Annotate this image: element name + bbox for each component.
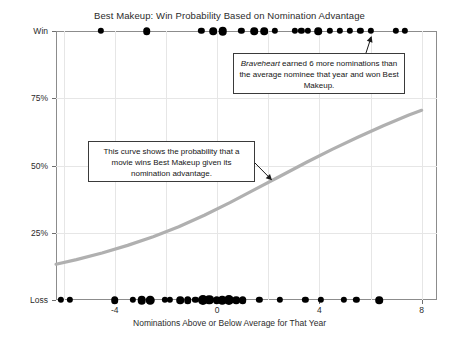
y-tick-mark [52, 233, 56, 234]
x-tick-label: 4 [304, 305, 334, 315]
data-point [256, 297, 262, 303]
data-point [376, 296, 384, 304]
x-tick-label: 0 [202, 305, 232, 315]
x-tick-label: 8 [407, 305, 437, 315]
braveheart-emphasis: Braveheart [241, 59, 280, 68]
data-point [111, 296, 119, 304]
y-tick-label: Loss [2, 295, 48, 305]
chart-title: Best Makeup: Win Probability Based on No… [0, 10, 459, 21]
data-point [209, 27, 217, 35]
data-point [167, 297, 173, 303]
y-tick-label: Win [2, 26, 48, 36]
y-tick-label: 75% [2, 93, 48, 103]
data-point [130, 297, 136, 303]
data-point [314, 27, 322, 35]
data-point [302, 297, 308, 303]
data-point [67, 297, 73, 303]
x-axis-label: Nominations Above or Below Average for T… [0, 318, 459, 328]
gridline-horizontal [56, 98, 437, 99]
data-point [137, 296, 146, 305]
x-tick-label: -4 [100, 305, 130, 315]
data-point [261, 27, 269, 35]
data-point [143, 27, 151, 35]
y-tick-label: 50% [2, 161, 48, 171]
data-point [176, 296, 184, 304]
annotation-braveheart: Braveheart earned 6 more nominations tha… [233, 53, 405, 94]
annotation-curve: This curve shows the probability that a … [88, 141, 255, 182]
chart-container: Best Makeup: Win Probability Based on No… [0, 0, 459, 346]
data-point [341, 297, 347, 303]
gridline-horizontal [56, 233, 437, 234]
y-tick-label: 25% [2, 228, 48, 238]
data-point [146, 296, 155, 305]
data-point [239, 296, 247, 304]
curve-note-text: This curve shows the probability that a … [103, 147, 239, 178]
data-point [353, 297, 359, 303]
data-point [277, 297, 283, 303]
data-point [58, 297, 64, 303]
data-point [218, 27, 227, 36]
data-point [250, 27, 258, 35]
y-tick-mark [52, 31, 56, 32]
y-tick-mark [52, 300, 56, 301]
x-tick-mark [422, 300, 423, 304]
data-point [317, 297, 323, 303]
y-tick-mark [52, 166, 56, 167]
data-point [184, 296, 192, 304]
y-tick-mark [52, 98, 56, 99]
